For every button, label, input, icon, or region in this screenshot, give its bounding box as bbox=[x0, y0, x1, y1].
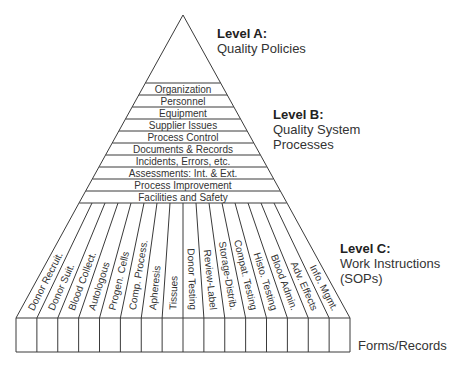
form-record-box bbox=[330, 319, 350, 352]
form-record-box bbox=[204, 319, 224, 352]
form-record-box bbox=[37, 319, 57, 352]
level-c-label: Level C: Work Instructions (SOPs) bbox=[340, 241, 440, 286]
forms-records-label: Forms/Records bbox=[358, 338, 447, 353]
form-record-box bbox=[267, 319, 287, 352]
form-record-box bbox=[58, 319, 78, 352]
band-label: Assessments: Int. & Ext. bbox=[129, 168, 237, 179]
form-record-box bbox=[163, 319, 183, 352]
level-b-subtitle-2: Processes bbox=[273, 137, 360, 152]
band-label: Incidents, Errors, etc. bbox=[136, 156, 230, 167]
level-a-title: Level A: bbox=[217, 26, 306, 41]
column-label: Tissues bbox=[167, 276, 179, 310]
form-record-box bbox=[246, 319, 266, 352]
band-label: Process Control bbox=[147, 132, 218, 143]
column-label: Donor Testing bbox=[186, 248, 199, 310]
column-label: Comp. Process. bbox=[127, 239, 150, 311]
band-label: Equipment bbox=[159, 108, 207, 119]
form-record-box bbox=[142, 319, 162, 352]
form-record-box bbox=[79, 319, 99, 352]
level-c-subtitle-1: Work Instructions bbox=[340, 256, 440, 271]
level-b-label: Level B: Quality System Processes bbox=[273, 107, 360, 152]
band-label: Personnel bbox=[160, 96, 205, 107]
form-record-box bbox=[17, 319, 37, 352]
band-label: Organization bbox=[155, 84, 212, 95]
band-label: Process Improvement bbox=[134, 180, 231, 191]
level-c-subtitle-2: (SOPs) bbox=[340, 271, 440, 286]
level-a-subtitle: Quality Policies bbox=[217, 41, 306, 56]
form-record-box bbox=[225, 319, 245, 352]
band-label: Supplier Issues bbox=[149, 120, 217, 131]
level-c-title: Level C: bbox=[340, 241, 440, 256]
form-record-box bbox=[288, 319, 308, 352]
form-record-box bbox=[309, 319, 329, 352]
band-label: Documents & Records bbox=[133, 144, 233, 155]
form-record-box bbox=[121, 319, 141, 352]
level-a-label: Level A: Quality Policies bbox=[217, 26, 306, 56]
band-label: Facilities and Safety bbox=[138, 192, 228, 203]
form-record-box bbox=[184, 319, 204, 352]
form-record-box bbox=[100, 319, 120, 352]
level-b-title: Level B: bbox=[273, 107, 360, 122]
column-label: Apheresis bbox=[147, 265, 162, 310]
level-b-subtitle-1: Quality System bbox=[273, 122, 360, 137]
